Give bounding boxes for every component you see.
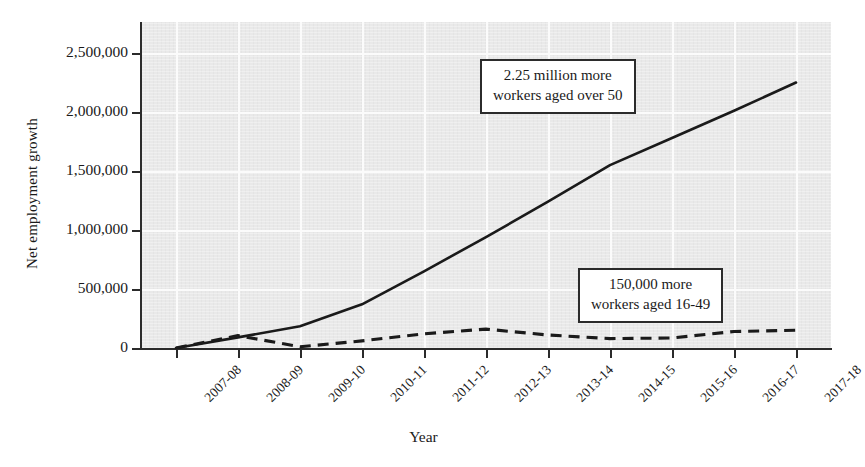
annotation-aged-16-49: 150,000 more workers aged 16-49 xyxy=(578,268,723,323)
annotation-aged-16-49-line2: workers aged 16-49 xyxy=(591,295,710,315)
x-axis-title: Year xyxy=(0,428,847,446)
annotation-over-50-line1: 2.25 million more xyxy=(493,66,623,86)
annotation-over-50: 2.25 million more workers aged over 50 xyxy=(480,59,636,114)
annotation-over-50-line2: workers aged over 50 xyxy=(493,86,623,106)
annotation-aged-16-49-line1: 150,000 more xyxy=(591,275,710,295)
